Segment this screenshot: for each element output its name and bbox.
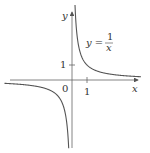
curve-negative-branch (5, 83, 69, 148)
hyperbola-chart: y x 0 1 1 y = 1 x (0, 0, 150, 153)
equation-denominator: x (106, 42, 112, 53)
y-tick-label-1: 1 (60, 59, 66, 70)
equation-lhs: y = (85, 37, 103, 48)
y-axis-label: y (61, 10, 68, 21)
origin-label: 0 (62, 83, 68, 94)
equation-numerator: 1 (107, 31, 113, 42)
x-axis-label: x (132, 83, 138, 94)
x-tick-label-1: 1 (84, 86, 90, 97)
